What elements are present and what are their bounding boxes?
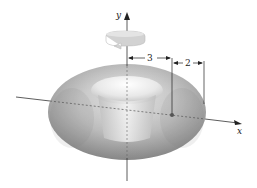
torus-diagram: x y 3 2 (0, 0, 257, 188)
dimension-2-label: 2 (185, 58, 191, 68)
dimension-3: 3 (128, 53, 171, 63)
y-axis-label: y (115, 10, 122, 20)
x-axis-right (205, 119, 238, 123)
x-axis-arrowhead (234, 120, 242, 125)
dimension-2: 2 (173, 58, 203, 68)
circle-center-point (170, 113, 174, 117)
rotation-arrow-icon (106, 31, 145, 49)
y-axis-arrowhead (124, 12, 130, 20)
x-axis-label: x (237, 126, 242, 136)
x-axis-left (16, 97, 50, 101)
dimension-3-label: 3 (147, 53, 153, 63)
